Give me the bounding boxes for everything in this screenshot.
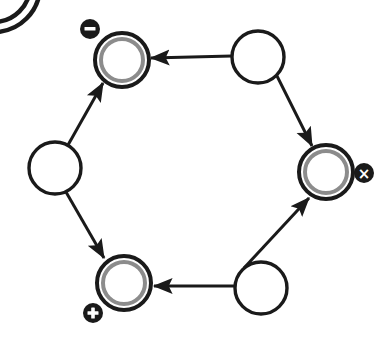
- times-badge-icon[interactable]: ×: [354, 163, 374, 183]
- edge-left-to-bottom-left[interactable]: [66, 192, 104, 258]
- diagram-canvas: ×: [0, 0, 391, 346]
- plus-badge-icon[interactable]: [83, 303, 103, 323]
- minus-badge-icon[interactable]: [80, 19, 100, 39]
- top-left-node-inner-ring: [101, 39, 143, 81]
- edge-top-right-to-top-left[interactable]: [151, 56, 232, 58]
- right-node-inner-ring: [305, 151, 347, 193]
- top-right-node[interactable]: [232, 31, 284, 83]
- edge-bottom-right-to-right[interactable]: [244, 198, 309, 268]
- edge-layer: [66, 56, 312, 286]
- minus-badge-glyph: [85, 27, 96, 31]
- corner-arc-outer: [0, 0, 40, 32]
- times-badge-circle: [354, 163, 374, 183]
- bottom-left-node[interactable]: [97, 256, 151, 310]
- left-node[interactable]: [29, 142, 81, 194]
- node-layer: [29, 31, 353, 314]
- edge-left-to-top-left[interactable]: [68, 83, 103, 145]
- bottom-left-node-inner-ring: [103, 262, 145, 304]
- top-left-node[interactable]: [95, 33, 149, 87]
- right-node[interactable]: [299, 145, 353, 199]
- edge-top-right-to-right[interactable]: [277, 76, 312, 146]
- bottom-right-node[interactable]: [235, 262, 287, 314]
- left-node-circle: [29, 142, 81, 194]
- bottom-right-node-circle: [235, 262, 287, 314]
- top-right-node-circle: [232, 31, 284, 83]
- diagram-svg: ×: [0, 0, 391, 346]
- plus-badge-glyph-vertical: [91, 308, 95, 319]
- corner-arc-fragment: [0, 0, 40, 32]
